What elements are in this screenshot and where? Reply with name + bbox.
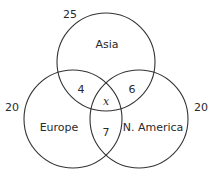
europe-namerica-count: 7 <box>103 126 110 139</box>
europe-total: 20 <box>5 101 19 114</box>
namerica-label: N. America <box>123 121 184 134</box>
namerica-circle <box>90 70 188 168</box>
europe-circle <box>24 70 122 168</box>
all-three-count: x <box>103 95 110 108</box>
asia-total: 25 <box>63 8 77 21</box>
europe-label: Europe <box>40 121 79 134</box>
asia-label: Asia <box>95 38 118 51</box>
venn-diagram: 25 20 20 Asia Europe N. America 4 6 7 x <box>0 0 213 176</box>
asia-namerica-count: 6 <box>129 83 136 96</box>
asia-europe-count: 4 <box>78 83 85 96</box>
namerica-total: 20 <box>194 101 208 114</box>
